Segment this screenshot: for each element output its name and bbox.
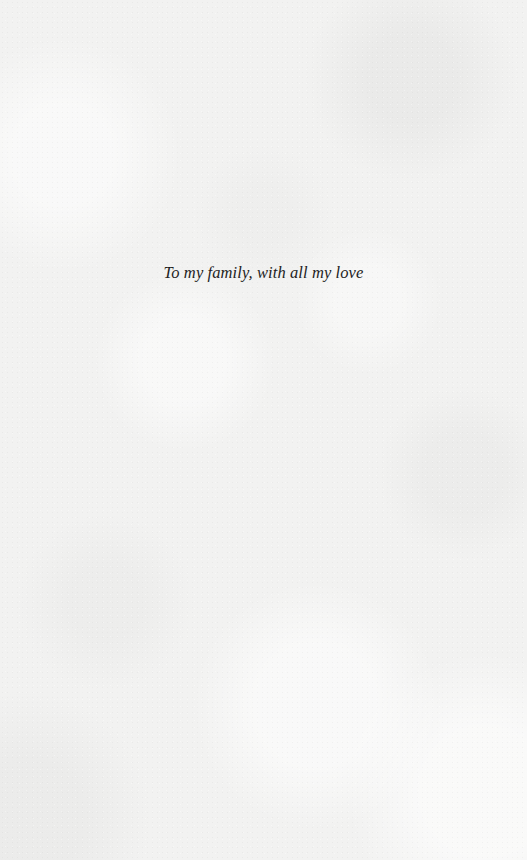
dedication-text: To my family, with all my love (0, 263, 527, 283)
dedication-page: To my family, with all my love (0, 0, 527, 860)
